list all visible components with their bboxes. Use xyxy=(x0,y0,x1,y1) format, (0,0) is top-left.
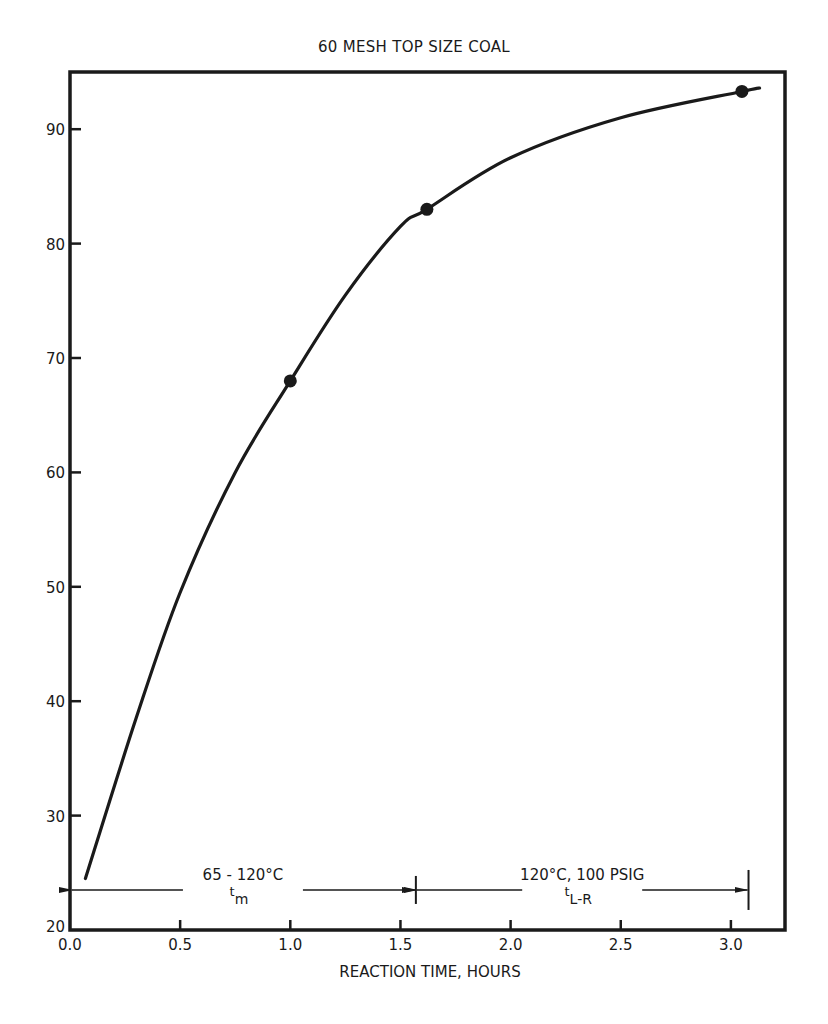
y-tick-label: 80 xyxy=(46,236,65,254)
x-tick-label: 0.5 xyxy=(168,936,192,954)
y-tick-label: 40 xyxy=(46,693,65,711)
y-tick-label: 70 xyxy=(46,350,65,368)
x-tick-label: 0.0 xyxy=(58,936,82,954)
data-points xyxy=(284,85,749,387)
y-tick-label: 60 xyxy=(46,464,65,482)
plot-border xyxy=(70,72,785,930)
x-axis: 0.00.51.01.52.02.53.0 xyxy=(58,920,743,954)
y-tick-label: 50 xyxy=(46,579,65,597)
range-annotations: 65 - 120°Ctm120°C, 100 PSIGtL-R xyxy=(72,866,749,910)
plot-frame xyxy=(70,72,785,930)
range-label: 65 - 120°C xyxy=(203,866,284,884)
x-tick-label: 2.0 xyxy=(499,936,523,954)
y-axis: 2030405060708090 xyxy=(46,121,81,936)
range-symbol: tL-R xyxy=(564,884,592,907)
x-tick-label: 2.5 xyxy=(609,936,633,954)
data-point-marker xyxy=(420,203,433,216)
y-tick-label: 30 xyxy=(46,808,65,826)
x-axis-label: REACTION TIME, HOURS xyxy=(339,963,520,981)
range-label: 120°C, 100 PSIG xyxy=(520,866,644,884)
data-point-marker xyxy=(735,85,748,98)
x-tick-label: 1.0 xyxy=(278,936,302,954)
range-annotation-tlr: 120°C, 100 PSIGtL-R xyxy=(417,866,749,910)
y-tick-label: 90 xyxy=(46,121,65,139)
x-tick-label: 3.0 xyxy=(719,936,743,954)
range-symbol: tm xyxy=(230,884,249,907)
y-tick-label: 20 xyxy=(46,918,65,936)
x-tick-label: 1.5 xyxy=(389,936,413,954)
chart-canvas: 2030405060708090 0.00.51.01.52.02.53.0 6… xyxy=(0,0,828,1024)
data-point-marker xyxy=(284,374,297,387)
range-annotation-tm: 65 - 120°Ctm xyxy=(72,866,416,907)
